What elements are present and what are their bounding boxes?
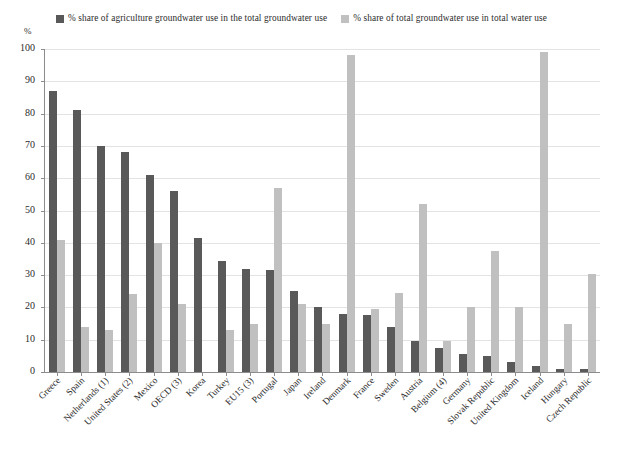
bar-total-groundwater [129, 294, 137, 372]
bar-agriculture-groundwater [507, 362, 515, 372]
legend-item-total-groundwater: % share of total groundwater use in tota… [341, 14, 547, 23]
y-tick-label: 70 [25, 140, 35, 150]
y-tick: 90 [1, 81, 45, 82]
y-axis-unit-label: % [24, 26, 32, 36]
bar-group [69, 49, 93, 372]
y-tick: 30 [1, 275, 45, 276]
x-label-cell: Austria [406, 374, 430, 464]
bar-total-groundwater [105, 330, 113, 372]
x-label-cell: EU15 (3) [237, 374, 261, 464]
plot-area: 0102030405060708090100 [44, 49, 600, 373]
y-tick: 80 [1, 114, 45, 115]
bar-total-groundwater [178, 304, 186, 372]
y-tick: 60 [1, 178, 45, 179]
bar-agriculture-groundwater [146, 175, 154, 372]
x-label-cell: Portugal [261, 374, 285, 464]
y-tick: 0 [1, 372, 45, 373]
y-tick: 40 [1, 243, 45, 244]
y-tick-label: 20 [25, 301, 35, 311]
bar-total-groundwater [298, 304, 306, 372]
bar-series-group [45, 49, 600, 372]
bar-group [503, 49, 527, 372]
bar-agriculture-groundwater [339, 314, 347, 372]
y-tick-mark [41, 372, 45, 373]
bar-agriculture-groundwater [266, 270, 274, 372]
y-tick: 10 [1, 340, 45, 341]
x-axis-labels: GreeceSpainNetherlands (1)United States … [44, 374, 599, 464]
x-label-cell: Czech Republic [575, 374, 599, 464]
bar-group [431, 49, 455, 372]
bar-agriculture-groundwater [290, 291, 298, 372]
bar-total-groundwater [540, 52, 548, 372]
bar-group [117, 49, 141, 372]
bar-agriculture-groundwater [459, 354, 467, 372]
x-label-cell: Sweden [382, 374, 406, 464]
bar-total-groundwater [443, 341, 451, 372]
x-label-cell: United States (2) [116, 374, 140, 464]
y-tick: 20 [1, 307, 45, 308]
y-tick-label: 80 [25, 108, 35, 118]
bar-agriculture-groundwater [121, 152, 129, 372]
x-label-cell: Korea [189, 374, 213, 464]
x-axis-label: Korea [185, 376, 208, 399]
x-label-cell: France [358, 374, 382, 464]
chart-container: % share of agriculture groundwater use i… [0, 0, 617, 464]
y-tick: 50 [1, 211, 45, 212]
bar-group [310, 49, 334, 372]
bar-group [359, 49, 383, 372]
legend-label-total-groundwater: % share of total groundwater use in tota… [353, 14, 547, 23]
bar-group [455, 49, 479, 372]
bar-agriculture-groundwater [314, 307, 322, 372]
bar-group [528, 49, 552, 372]
bar-total-groundwater [226, 330, 234, 372]
y-tick-label: 10 [25, 334, 35, 344]
bar-total-groundwater [419, 204, 427, 372]
bar-total-groundwater [250, 324, 258, 372]
y-tick-label: 50 [25, 205, 35, 215]
bar-agriculture-groundwater [387, 327, 395, 372]
bar-group [238, 49, 262, 372]
bar-group [166, 49, 190, 372]
bar-total-groundwater [491, 251, 499, 372]
legend-label-agriculture-groundwater: % share of agriculture groundwater use i… [68, 14, 327, 23]
bar-total-groundwater [371, 309, 379, 372]
bar-group [479, 49, 503, 372]
legend-swatch-agriculture-groundwater [56, 15, 64, 23]
bar-group [45, 49, 69, 372]
bar-group [335, 49, 359, 372]
y-tick-label: 100 [20, 43, 35, 53]
bar-group [142, 49, 166, 372]
y-tick-label: 30 [25, 269, 35, 279]
bar-agriculture-groundwater [556, 369, 564, 372]
y-tick-label: 60 [25, 172, 35, 182]
bar-agriculture-groundwater [483, 356, 491, 372]
bar-total-groundwater [395, 293, 403, 372]
bar-total-groundwater [154, 243, 162, 372]
y-tick-label: 90 [25, 75, 35, 85]
x-label-cell: Denmark [334, 374, 358, 464]
legend-item-agriculture-groundwater: % share of agriculture groundwater use i… [56, 14, 327, 23]
bar-agriculture-groundwater [218, 261, 226, 372]
x-axis-label: Greece [37, 376, 62, 401]
x-label-cell: Ireland [309, 374, 333, 464]
bar-total-groundwater [57, 240, 65, 372]
bar-agriculture-groundwater [97, 146, 105, 372]
bar-group [383, 49, 407, 372]
bar-group [190, 49, 214, 372]
x-axis-label: Japan [282, 376, 304, 398]
bar-group [93, 49, 117, 372]
bar-total-groundwater [588, 274, 596, 373]
bar-agriculture-groundwater [194, 238, 202, 372]
bar-total-groundwater [467, 307, 475, 372]
x-label-cell: OECD (3) [165, 374, 189, 464]
bar-agriculture-groundwater [435, 348, 443, 372]
x-label-cell: Mexico [141, 374, 165, 464]
bar-total-groundwater [564, 324, 572, 372]
x-label-cell: Japan [285, 374, 309, 464]
bar-agriculture-groundwater [580, 369, 588, 372]
y-tick-label: 0 [30, 366, 35, 376]
legend-swatch-total-groundwater [341, 15, 349, 23]
chart-legend: % share of agriculture groundwater use i… [56, 14, 547, 23]
y-tick: 100 [1, 49, 45, 50]
x-label-cell: Turkey [213, 374, 237, 464]
